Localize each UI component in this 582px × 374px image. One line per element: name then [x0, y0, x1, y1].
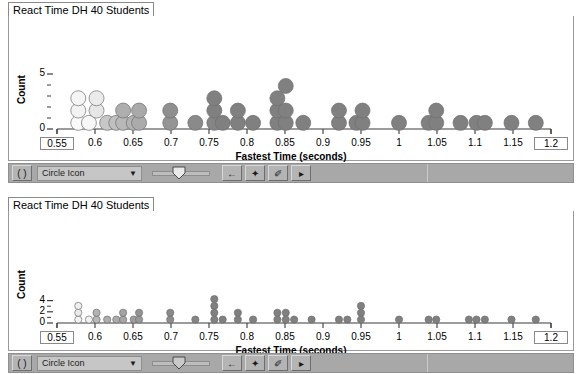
- icon-type-select-value-bottom: Circle Icon: [38, 358, 129, 368]
- data-point[interactable]: [104, 316, 111, 323]
- paren-tool-button-top[interactable]: ( ): [12, 165, 32, 181]
- data-point[interactable]: [425, 316, 432, 323]
- x-axis-tick-label: 1.05: [420, 331, 454, 342]
- icon-type-select-bottom[interactable]: Circle Icon ▼: [37, 356, 142, 371]
- panel-title-tab-bottom[interactable]: React Time DH 40 Students: [8, 197, 154, 212]
- data-point[interactable]: [433, 316, 440, 323]
- data-point[interactable]: [167, 316, 174, 323]
- data-point[interactable]: [282, 309, 289, 316]
- data-point[interactable]: [120, 316, 127, 323]
- slider-thumb-bottom[interactable]: [172, 356, 186, 370]
- icon-size-slider-top[interactable]: [152, 166, 210, 180]
- panel-title-tab-top[interactable]: React Time DH 40 Students: [8, 2, 154, 17]
- data-point[interactable]: [504, 115, 519, 130]
- x-axis-tick-label: 0.95: [344, 137, 378, 148]
- x-axis-tick-label: 0.75: [192, 137, 226, 148]
- data-point[interactable]: [234, 309, 241, 316]
- data-point[interactable]: [357, 316, 364, 323]
- back-arrow-button-bottom[interactable]: ←: [222, 355, 242, 371]
- data-point[interactable]: [219, 316, 226, 323]
- x-axis-limit-label[interactable]: 1.2: [534, 137, 568, 150]
- data-point[interactable]: [116, 103, 131, 118]
- data-point[interactable]: [308, 316, 315, 323]
- play-button-bottom[interactable]: ▸: [291, 355, 311, 371]
- graph-panel-bottom: React Time DH 40 Students 024Count0.550.…: [0, 195, 582, 371]
- data-point[interactable]: [481, 316, 488, 323]
- data-point[interactable]: [477, 115, 492, 130]
- data-point[interactable]: [85, 316, 92, 323]
- slider-thumb-top[interactable]: [172, 166, 186, 180]
- pen-tool-button-top[interactable]: ✐: [268, 165, 288, 181]
- data-point[interactable]: [335, 316, 342, 323]
- data-point[interactable]: [291, 316, 298, 323]
- data-point[interactable]: [246, 115, 261, 130]
- data-point[interactable]: [211, 309, 218, 316]
- data-point[interactable]: [120, 309, 127, 316]
- data-point[interactable]: [282, 316, 289, 323]
- data-point[interactable]: [274, 316, 281, 323]
- data-point[interactable]: [278, 78, 293, 93]
- data-point[interactable]: [71, 91, 86, 106]
- data-point[interactable]: [429, 103, 444, 118]
- play-button-top[interactable]: ▸: [291, 165, 311, 181]
- data-point[interactable]: [357, 302, 364, 309]
- data-point[interactable]: [192, 316, 199, 323]
- x-axis-limit-label[interactable]: 0.55: [40, 331, 74, 344]
- data-point[interactable]: [75, 302, 82, 309]
- paren-tool-button-bottom[interactable]: ( ): [12, 355, 32, 371]
- data-point[interactable]: [163, 103, 178, 118]
- data-point[interactable]: [75, 316, 82, 323]
- data-point[interactable]: [211, 302, 218, 309]
- data-point[interactable]: [75, 309, 82, 316]
- add-point-button-bottom[interactable]: ✦: [245, 355, 265, 371]
- data-point[interactable]: [234, 316, 241, 323]
- data-point[interactable]: [93, 309, 100, 316]
- data-point[interactable]: [344, 316, 351, 323]
- data-point[interactable]: [132, 103, 147, 118]
- x-axis-tick-label: 1.05: [420, 137, 454, 148]
- data-point[interactable]: [392, 115, 407, 130]
- data-point[interactable]: [249, 316, 256, 323]
- data-point[interactable]: [357, 309, 364, 316]
- data-point[interactable]: [215, 115, 230, 130]
- x-axis-tick-label: 0.85: [268, 331, 302, 342]
- data-point[interactable]: [89, 91, 104, 106]
- icon-type-select-top[interactable]: Circle Icon ▼: [37, 166, 142, 181]
- data-point[interactable]: [473, 316, 480, 323]
- x-axis-tick-label: 0.8: [230, 331, 264, 342]
- data-point[interactable]: [465, 316, 472, 323]
- x-axis-tick-label: 1: [382, 331, 416, 342]
- x-axis-tick-label: 0.95: [344, 331, 378, 342]
- data-point[interactable]: [167, 309, 174, 316]
- data-point[interactable]: [93, 316, 100, 323]
- data-point[interactable]: [135, 309, 142, 316]
- data-point[interactable]: [508, 316, 515, 323]
- data-point[interactable]: [113, 316, 120, 323]
- data-point[interactable]: [135, 316, 142, 323]
- x-axis-tick-label: 0.6: [78, 137, 112, 148]
- add-point-button-top[interactable]: ✦: [245, 165, 265, 181]
- data-point[interactable]: [207, 91, 222, 106]
- data-point[interactable]: [395, 316, 402, 323]
- x-axis-limit-label[interactable]: 1.2: [534, 331, 568, 344]
- back-arrow-button-top[interactable]: ←: [222, 165, 242, 181]
- data-point[interactable]: [532, 316, 539, 323]
- dotplot-top[interactable]: 05Count0.550.60.650.70.750.80.850.90.951…: [9, 16, 573, 160]
- data-point[interactable]: [331, 103, 346, 118]
- data-point[interactable]: [355, 103, 370, 118]
- data-point[interactable]: [188, 115, 203, 130]
- data-point[interactable]: [211, 316, 218, 323]
- data-point[interactable]: [528, 115, 543, 130]
- data-point[interactable]: [453, 115, 468, 130]
- data-point[interactable]: [278, 103, 293, 118]
- data-point[interactable]: [211, 295, 218, 302]
- graph-panel-top: React Time DH 40 Students 05Count0.550.6…: [0, 0, 582, 193]
- data-point[interactable]: [230, 103, 245, 118]
- x-axis-tick-label: 0.7: [154, 137, 188, 148]
- data-point[interactable]: [274, 309, 281, 316]
- x-axis-limit-label[interactable]: 0.55: [40, 137, 74, 150]
- data-point[interactable]: [296, 115, 311, 130]
- pen-tool-button-bottom[interactable]: ✐: [268, 355, 288, 371]
- dotplot-bottom[interactable]: 024Count0.550.60.650.70.750.80.850.90.95…: [9, 211, 573, 350]
- icon-size-slider-bottom[interactable]: [152, 356, 210, 370]
